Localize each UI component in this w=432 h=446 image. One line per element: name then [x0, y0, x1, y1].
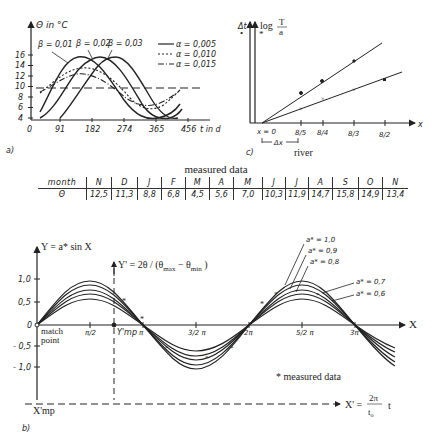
- svg-text:*: *: [230, 344, 234, 352]
- match-point-marker: [35, 323, 39, 327]
- month-cell: J: [138, 177, 162, 189]
- svg-text:*: *: [259, 29, 264, 39]
- month-cell: M: [186, 177, 210, 189]
- panel-a: [28, 22, 210, 122]
- month-cell: D: [112, 177, 138, 189]
- figure-canvas: Θ in °C 4 6 8 10 12 14 16 0 91 182 274 3…: [0, 0, 432, 446]
- xtick: 274: [117, 125, 132, 134]
- data-point: [353, 60, 355, 62]
- ytick: 12: [15, 72, 25, 81]
- ytick: 0: [27, 321, 32, 330]
- value-cell: 13,4: [383, 189, 409, 201]
- xtick: 456: [181, 125, 196, 134]
- ytick: 8: [18, 93, 23, 102]
- xtick: 8/2: [379, 131, 391, 139]
- value-cell: 10,3: [263, 189, 286, 201]
- value-cell: 5,6: [210, 189, 234, 201]
- xprime-t: t: [388, 400, 391, 411]
- value-cell: 11,9: [286, 189, 309, 201]
- xtick: 182: [85, 125, 100, 134]
- svg-text:×: ×: [321, 96, 324, 102]
- value-cell: 14,7: [309, 189, 333, 201]
- measured-data-title: measured data: [0, 163, 432, 175]
- amp-label: a* = 0,6: [356, 290, 386, 298]
- river-label: river: [294, 147, 314, 158]
- data-point: [300, 92, 303, 95]
- ytick: 10: [15, 82, 25, 91]
- panel-a-xlabel: t in d: [200, 125, 222, 134]
- ytick: 4: [18, 114, 23, 123]
- panel-c: × × ×: [250, 22, 415, 143]
- month-header: month: [38, 177, 87, 189]
- ytick: - 1,0: [13, 363, 31, 372]
- xtick: 3/2 π: [188, 329, 206, 337]
- xtick: 8/5: [295, 129, 307, 137]
- value-cell: 14,9: [359, 189, 383, 201]
- month-cell: J: [263, 177, 286, 189]
- panel-c-xlabel: x: [417, 120, 423, 129]
- panel-a-ylabel: Θ in °C: [36, 20, 69, 30]
- xtick: x = 0: [256, 128, 276, 136]
- month-cell: N: [87, 177, 112, 189]
- value-cell: 7,0: [234, 189, 263, 201]
- xtick: π/2: [85, 329, 97, 337]
- match-label-2: point: [41, 335, 60, 345]
- ytick: 6: [18, 103, 23, 112]
- amp-label: a* = 0,7: [356, 278, 386, 286]
- svg-text:•: •: [240, 28, 243, 38]
- amp-label: a* = 0,9: [308, 247, 338, 255]
- panel-b-xlabel: X: [409, 318, 417, 330]
- xtick: 0: [27, 125, 32, 134]
- value-cell: 15,8: [333, 189, 359, 201]
- value-cell: 11,3: [112, 189, 138, 201]
- panel-b-label: b): [22, 424, 30, 433]
- panel-b: [25, 244, 405, 404]
- month-cell: O: [359, 177, 383, 189]
- panel-c-labels: Δt • log T a * x x = 0 8/5 8/4 8/3 8/2 Δ…: [237, 17, 423, 158]
- xtick: 2π: [244, 329, 253, 337]
- value-cell: 8,8: [138, 189, 162, 201]
- value-cell: 4,5: [186, 189, 210, 201]
- xtick: 365: [149, 125, 164, 134]
- month-cell: M: [234, 177, 263, 189]
- table-header-row: month N D J F M A M J J A S O N: [38, 177, 408, 189]
- ytick: 1,0: [18, 275, 31, 284]
- amp-label: a* = 1,0: [306, 236, 336, 244]
- xtick: 8/4: [317, 129, 328, 137]
- ytick: 0,5: [18, 298, 31, 307]
- svg-text:*: *: [260, 300, 264, 309]
- xtick: 91: [55, 125, 65, 134]
- xprime-num: 2π: [369, 393, 379, 403]
- table-value-row: Θ 12,5 11,3 8,8 6,8 4,5 5,6 7,0 10,3 11,…: [38, 189, 408, 201]
- value-cell: 12,5: [87, 189, 112, 201]
- xprime-label-lhs: X' =: [345, 399, 363, 410]
- legend-label: α = 0,015: [176, 60, 216, 69]
- panel-b-labels: Y = a* sin X Y' = 2θ / (θmax − θmin ) 1,…: [13, 236, 417, 433]
- month-cell: J: [286, 177, 309, 189]
- beta-label: β = 0,01: [37, 40, 73, 49]
- svg-text:*: *: [140, 315, 144, 324]
- data-point: [321, 80, 324, 83]
- ytick: 16: [15, 51, 25, 60]
- ytick: 14: [15, 61, 25, 70]
- xtick: 3π: [350, 329, 359, 337]
- ytick: - 0,5: [13, 342, 31, 351]
- month-cell: F: [162, 177, 186, 189]
- svg-text:×: ×: [352, 87, 355, 93]
- beta-label: β = 0,03: [107, 39, 143, 48]
- xtick: π: [139, 329, 144, 337]
- log-denominator: a: [279, 27, 283, 37]
- amp-label: a* = 0,8: [310, 258, 340, 266]
- month-cell: A: [210, 177, 234, 189]
- data-point: [383, 78, 386, 81]
- xtick: 5/2 π: [296, 329, 314, 337]
- theta-header: Θ: [38, 189, 87, 201]
- svg-text:*: *: [205, 354, 209, 362]
- month-cell: A: [309, 177, 333, 189]
- svg-text:×: ×: [299, 106, 302, 112]
- legend-label: α = 0,010: [176, 50, 216, 59]
- measured-data-table: month N D J F M A M J J A S O N Θ 12,5 1…: [38, 177, 408, 200]
- svg-text:*: *: [316, 291, 320, 299]
- xtick: 8/3: [348, 130, 359, 138]
- xprime-den: to: [368, 407, 374, 418]
